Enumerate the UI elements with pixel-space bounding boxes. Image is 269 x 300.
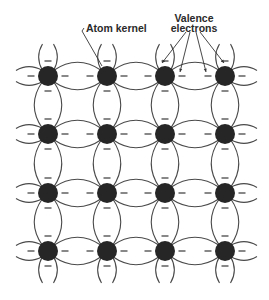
bond-arc [231,199,239,246]
atom-kernel [97,183,117,203]
bond-arc [34,140,42,188]
edge-bond-arc [216,257,220,284]
bond-arc [151,82,159,129]
bond-arc [113,82,160,90]
bond-arc [54,199,62,246]
edge-bond-arc [171,257,175,284]
edge-bond-arc [16,242,43,246]
bond-arc [171,199,179,246]
bond-arc [171,237,220,245]
bond-arc [211,199,219,246]
edge-bond-arc [113,44,117,71]
bond-arc [231,140,239,188]
bond-arc [54,237,102,245]
bond-arc [113,82,121,129]
edge-bond-arc [16,184,43,188]
atom-kernel [215,241,235,261]
bond-arc [113,179,160,187]
bond-arc [171,120,220,128]
valence-arrow-line [200,32,224,63]
bond-arc [113,62,160,70]
bond-arc [231,82,239,129]
bond-arc [93,82,101,129]
atom-kernel [155,183,175,203]
atom-kernel [38,183,58,203]
bond-arc [171,199,220,207]
bond-arc [113,257,160,265]
edge-bond-arc [231,184,258,188]
edge-bond-arc [16,140,43,144]
bond-arc [211,82,219,129]
bond-arc [54,199,102,207]
bond-arc [54,179,102,187]
edge-bond-arc [231,82,258,86]
bond-arc [54,82,62,129]
edge-bond-arc [231,242,258,246]
bond-arc [113,199,121,246]
bond-arc [113,140,160,148]
edge-bond-arc [231,257,235,284]
edge-bond-arc [231,140,258,144]
bond-arc [93,140,101,188]
atom-kernel [155,124,175,144]
bond-arc [171,82,220,90]
bond-arc [211,140,219,188]
bond-arc [113,237,160,245]
atom-kernel [215,66,235,86]
edge-bond-arc [54,44,58,71]
bond-arc [171,62,220,70]
atom-kernel [38,241,58,261]
atom-kernel [155,66,175,86]
bond-arc [113,199,160,207]
bond-arc [171,140,179,188]
bond-arc [113,120,160,128]
bond-arc [171,82,179,129]
edge-bond-arc [231,44,235,71]
valence-electrons [28,61,246,266]
edge-bond-arc [98,44,102,71]
label-leaders [82,28,224,72]
bond-arc [54,62,102,70]
bond-arc [54,82,102,90]
bond-arc [171,257,220,265]
edge-bond-arc [156,44,160,71]
edge-bond-arc [156,257,160,284]
edge-bond-arc [231,125,258,129]
bond-arc [54,257,102,265]
edge-bond-arc [113,257,117,284]
atom-kernel [215,124,235,144]
atom-kernel [38,66,58,86]
bond-arc [54,140,102,148]
bond-arc [171,140,220,148]
atom-kernel [215,183,235,203]
edge-bond-arc [231,257,258,261]
atom-kernel [97,124,117,144]
valence-electrons-label: Valence electrons [168,13,220,33]
bond-arc [34,199,42,246]
atom-kernel [155,241,175,261]
edge-bond-arc [16,82,43,86]
valence-label-line2: electrons [168,23,220,33]
bond-arc [151,199,159,246]
bond-arc [171,179,220,187]
edge-bond-arc [216,44,220,71]
atom-kernels [38,66,235,261]
atom-kernel [97,66,117,86]
edge-bond-arc [54,257,58,284]
edge-bond-arc [16,257,43,261]
edge-bond-arc [39,257,43,284]
atom-kernel [97,241,117,261]
edge-bond-arc [39,44,43,71]
bond-arc [34,82,42,129]
atom-kernel-label: Atom kernel [86,23,147,33]
crystal-lattice-diagram [0,0,269,300]
bond-arc [93,199,101,246]
bond-arc [113,140,121,188]
edge-bond-arc [16,199,43,203]
bond-arc [54,120,102,128]
edge-bond-arc [231,199,258,203]
edge-bond-arc [16,67,43,71]
bond-arc [151,140,159,188]
edge-bond-arc [16,125,43,129]
edge-bond-arc [231,67,258,71]
